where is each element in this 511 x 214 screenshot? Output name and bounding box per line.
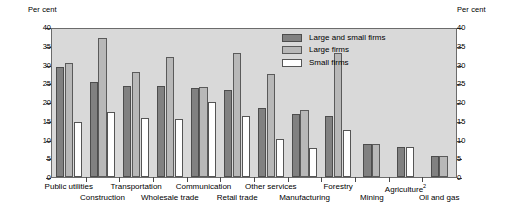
y-tick-label: 40 — [35, 24, 51, 32]
y-tick-label: 10 — [457, 137, 473, 145]
y-tick-label: 40 — [457, 24, 473, 32]
bar — [208, 102, 216, 177]
bar — [157, 86, 165, 178]
bar — [132, 72, 140, 177]
bar — [141, 118, 149, 177]
bar — [90, 82, 98, 177]
y-tick-label: 30 — [457, 62, 473, 70]
y-tick-label: 30 — [35, 62, 51, 70]
plot-area — [51, 28, 457, 178]
bar — [431, 156, 439, 177]
legend-label: Large and small firms — [309, 34, 385, 42]
y-axis-right: 0510152025303540 — [457, 28, 479, 178]
bar — [406, 147, 414, 177]
bar-group — [86, 29, 120, 177]
bar — [98, 38, 106, 178]
bar — [363, 144, 371, 177]
bar-group — [220, 29, 254, 177]
y-tick-label: 15 — [457, 118, 473, 126]
legend-item-large: Large firms — [282, 45, 385, 56]
y-tick-label: 5 — [35, 155, 51, 163]
category-label: Agriculture2 — [361, 182, 451, 194]
bar — [65, 63, 73, 177]
bar — [233, 53, 241, 177]
legend: Large and small firmsLarge firmsSmall fi… — [282, 32, 385, 70]
bars-layer — [52, 29, 456, 177]
bar-chart: Per cent Per cent 0510152025303540 05101… — [0, 0, 511, 214]
bar — [56, 67, 64, 177]
y-axis-left: 0510152025303540 — [29, 28, 51, 178]
left-axis-title: Per cent — [28, 5, 57, 14]
y-tick-label: 35 — [35, 43, 51, 51]
bar — [107, 112, 115, 177]
right-axis-title: Per cent — [457, 5, 486, 14]
legend-swatch-small — [282, 59, 302, 67]
y-tick-label: 5 — [457, 155, 473, 163]
category-axis-labels: Public utilitiesConstructionTransportati… — [0, 180, 511, 214]
bar — [300, 110, 308, 178]
y-tick-label: 10 — [35, 137, 51, 145]
bar — [242, 116, 250, 177]
y-tick-label: 25 — [457, 80, 473, 88]
bar — [276, 139, 284, 177]
category-label: Oil and gas — [394, 193, 484, 202]
bar — [175, 119, 183, 177]
bar — [439, 156, 447, 177]
bar-group — [153, 29, 187, 177]
bar — [267, 74, 275, 177]
bar — [325, 116, 333, 177]
bar — [397, 147, 405, 177]
bar-group — [52, 29, 86, 177]
y-tick-label: 15 — [35, 118, 51, 126]
bar-group — [119, 29, 153, 177]
legend-label: Small firms — [309, 59, 349, 67]
bar — [258, 108, 266, 177]
bar — [123, 86, 131, 178]
y-tick-label: 20 — [457, 99, 473, 107]
legend-item-small: Small firms — [282, 57, 385, 68]
bar — [372, 144, 380, 177]
y-tick-label: 20 — [35, 99, 51, 107]
bar — [166, 57, 174, 177]
bar — [199, 87, 207, 177]
bar — [334, 53, 342, 178]
bar — [224, 90, 232, 177]
bar — [74, 122, 82, 177]
legend-label: Large firms — [309, 46, 349, 54]
y-tick-label: 25 — [35, 80, 51, 88]
bar — [309, 148, 317, 177]
bar-group — [187, 29, 221, 177]
legend-item-large_and_small: Large and small firms — [282, 32, 385, 43]
legend-swatch-large_and_small — [282, 34, 302, 42]
bar — [292, 114, 300, 177]
bar — [343, 130, 351, 177]
bar-group — [389, 29, 423, 177]
bar — [191, 88, 199, 177]
legend-swatch-large — [282, 46, 302, 54]
bar-group — [422, 29, 456, 177]
y-tick-label: 35 — [457, 43, 473, 51]
